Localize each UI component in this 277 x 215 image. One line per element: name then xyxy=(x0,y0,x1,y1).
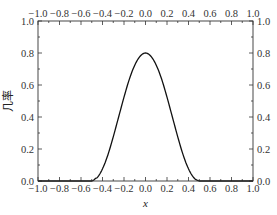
axis-ticks xyxy=(38,21,253,181)
x-tick-label-top: 0.6 xyxy=(203,8,216,19)
y-axis-label: 几率 xyxy=(1,90,14,112)
x-tick-label-bottom: −0.2 xyxy=(114,183,133,194)
x-tick-label-top: 0.4 xyxy=(182,8,196,19)
y-tick-label-left: 0.6 xyxy=(21,80,34,91)
x-tick-label-bottom: 0.6 xyxy=(203,183,216,194)
x-tick-label-bottom: −0.4 xyxy=(93,183,113,194)
y-tick-label-left: 1.0 xyxy=(21,16,34,27)
x-tick-label-bottom: 0.4 xyxy=(182,183,196,194)
y-tick-label-left: 0.4 xyxy=(21,112,35,123)
x-tick-label-top: −0.6 xyxy=(71,8,90,19)
x-tick-label-bottom: 0.2 xyxy=(160,183,173,194)
x-tick-label-bottom: −0.6 xyxy=(71,183,90,194)
plot-frame xyxy=(38,21,253,181)
tick-labels: −1.0−0.8−0.6−0.4−0.20.00.20.40.60.81.0−1… xyxy=(21,8,271,194)
y-tick-label-left: 0.2 xyxy=(21,144,34,155)
y-tick-label-right: 0.0 xyxy=(257,176,270,187)
probability-curve xyxy=(38,53,253,181)
x-tick-label-top: −0.4 xyxy=(93,8,113,19)
y-tick-label-right: 0.2 xyxy=(257,144,270,155)
y-tick-label-right: 0.8 xyxy=(257,48,270,59)
x-tick-label-top: 0.8 xyxy=(225,8,238,19)
y-tick-label-left: 0.0 xyxy=(21,176,34,187)
y-tick-label-right: 1.0 xyxy=(257,16,270,27)
x-tick-label-bottom: −0.8 xyxy=(50,183,69,194)
y-tick-label-right: 0.6 xyxy=(257,80,270,91)
x-axis-label: x xyxy=(142,197,148,209)
x-tick-label-top: −0.8 xyxy=(50,8,69,19)
probability-chart: −1.0−0.8−0.6−0.4−0.20.00.20.40.60.81.0−1… xyxy=(0,0,277,215)
y-tick-label-left: 0.8 xyxy=(21,48,34,59)
x-tick-label-top: 0.2 xyxy=(160,8,173,19)
x-tick-label-bottom: 0.8 xyxy=(225,183,238,194)
x-tick-label-top: 0.0 xyxy=(139,8,152,19)
y-tick-label-right: 0.4 xyxy=(257,112,271,123)
x-tick-label-top: −0.2 xyxy=(114,8,133,19)
x-tick-label-bottom: 0.0 xyxy=(139,183,152,194)
